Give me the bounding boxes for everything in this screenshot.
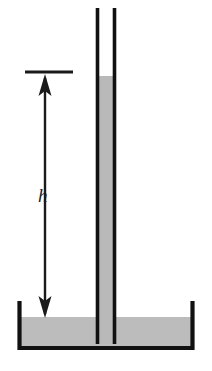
- height-label-h: h: [38, 186, 48, 205]
- tube-liquid-group: [99, 67, 113, 344]
- tube-liquid-column: [99, 74, 113, 344]
- capillary-rise-figure: h: [0, 0, 212, 371]
- capillary-diagram-canvas: [0, 0, 212, 371]
- tube-liquid-meniscus: [99, 67, 113, 76]
